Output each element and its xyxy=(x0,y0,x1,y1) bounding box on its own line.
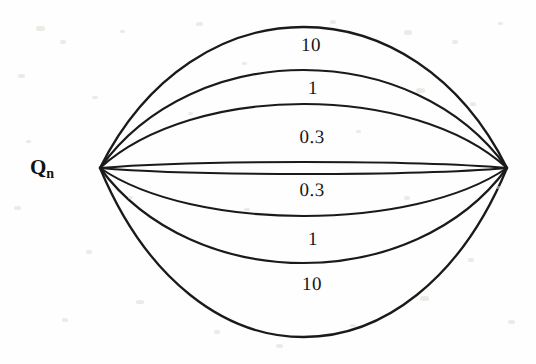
curve-label-lower-outer: 10 xyxy=(302,275,322,294)
contour-curve-upper-0 xyxy=(100,162,507,168)
axis-label-subscript: n xyxy=(46,166,54,181)
contour-diagram xyxy=(0,0,536,364)
axis-label-qn: Qn xyxy=(30,157,54,178)
curve-label-upper-outer: 10 xyxy=(301,36,321,55)
curve-label-upper-inner: 0.3 xyxy=(299,128,324,147)
figure-container: Qn 1010.30.3110 xyxy=(0,0,536,364)
curve-label-lower-inner: 0.3 xyxy=(299,181,324,200)
axis-label-base: Q xyxy=(30,155,46,179)
curve-label-lower-mid: 1 xyxy=(308,230,318,249)
curve-label-upper-mid: 1 xyxy=(308,79,318,98)
contour-curve-lower-0 xyxy=(100,168,507,174)
